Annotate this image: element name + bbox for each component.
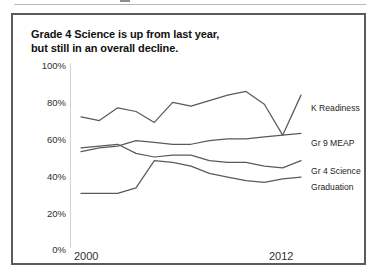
series-label-gr9-meap: Gr 9 MEAP	[311, 139, 354, 148]
plot-area: 100% 80% 60% 40% 20% 0% 2000 2012 K Read…	[13, 15, 368, 267]
series-line-gr9-meap	[81, 133, 301, 151]
page-root: Grade 4 Science is up from last year, bu…	[0, 0, 378, 278]
page-top-mark	[120, 0, 130, 2]
series-line-graduation	[81, 161, 301, 194]
series-label-k-readiness: K Readiness	[311, 104, 360, 113]
chart-figure: Grade 4 Science is up from last year, bu…	[11, 13, 366, 265]
series-label-graduation: Graduation	[311, 183, 354, 192]
series-label-gr4-science: Gr 4 Science	[311, 167, 361, 176]
series-line-k-readiness	[81, 91, 301, 135]
series-line-gr4-science	[81, 144, 301, 168]
page-top-rule	[14, 4, 366, 5]
